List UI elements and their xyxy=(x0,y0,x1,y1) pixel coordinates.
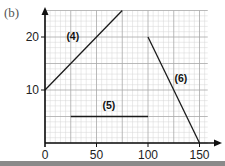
series-labels: (4)(5)(6) xyxy=(66,30,187,111)
svg-text:0: 0 xyxy=(42,148,49,162)
svg-text:150: 150 xyxy=(189,148,209,162)
svg-text:10: 10 xyxy=(26,83,40,97)
svg-text:100: 100 xyxy=(138,148,158,162)
svg-text:(6): (6) xyxy=(175,72,188,84)
svg-text:20: 20 xyxy=(26,30,40,44)
svg-text:(4): (4) xyxy=(66,30,79,42)
bottom-divider xyxy=(0,161,225,166)
line-chart: 0501001501020 (4)(5)(6) (b) xyxy=(0,0,225,166)
svg-text:(5): (5) xyxy=(102,99,115,111)
part-label: (b) xyxy=(4,5,19,20)
axes xyxy=(42,7,223,147)
svg-text:50: 50 xyxy=(90,148,104,162)
